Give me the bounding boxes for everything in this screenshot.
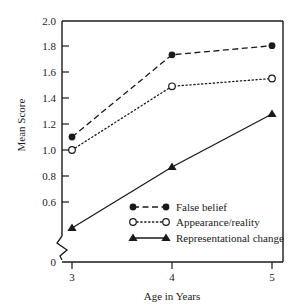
chart-legend: False belief Appearance/reality Represen… xyxy=(128,201,284,244)
data-point-representational-change-age4 xyxy=(167,163,176,171)
series-false-belief xyxy=(69,42,276,140)
series-line-false-belief xyxy=(72,46,272,137)
legend-label-appearance-reality: Appearance/reality xyxy=(176,216,260,228)
x-axis-ticks xyxy=(72,262,272,269)
x-axis-tick-labels: 3 4 5 xyxy=(69,271,275,283)
data-point-appearance-reality-age4 xyxy=(169,83,176,90)
series-representational-change xyxy=(67,110,276,232)
y-axis-tick-labels: 2.0 1.8 1.6 1.4 1.2 1.0 0.8 0.6 0 xyxy=(42,15,56,268)
x-tick-label-3: 3 xyxy=(69,271,75,283)
legend-label-representational-change: Representational change xyxy=(176,232,284,244)
legend-marker-representational-change-start xyxy=(128,234,137,242)
y-tick-label-1-2: 1.2 xyxy=(42,118,56,130)
y-tick-label-0-8: 0.8 xyxy=(42,170,56,182)
y-tick-label-2-0: 2.0 xyxy=(42,15,56,27)
data-point-false-belief-age3 xyxy=(69,134,76,141)
y-tick-label-1-4: 1.4 xyxy=(42,92,56,104)
data-point-appearance-reality-age3 xyxy=(69,147,76,154)
y-axis-ticks xyxy=(62,46,69,202)
y-axis-break-zigzag xyxy=(57,236,67,260)
chart-figure: 2.0 1.8 1.6 1.4 1.2 1.0 0.8 0.6 0 3 4 5 … xyxy=(0,0,302,307)
y-tick-label-0-6: 0.6 xyxy=(42,196,56,208)
y-tick-label-1-0: 1.0 xyxy=(42,144,56,156)
data-point-representational-change-age3 xyxy=(67,224,76,232)
legend-item-false-belief: False belief xyxy=(130,201,228,213)
y-tick-label-1-6: 1.6 xyxy=(42,66,56,78)
legend-item-representational-change: Representational change xyxy=(128,232,284,244)
data-point-appearance-reality-age5 xyxy=(269,75,276,82)
legend-marker-false-belief-end xyxy=(163,204,170,211)
x-axis-title: Age in Years xyxy=(144,290,201,302)
legend-item-appearance-reality: Appearance/reality xyxy=(130,216,260,228)
x-tick-label-4: 4 xyxy=(169,271,175,283)
legend-marker-appearance-reality-end xyxy=(163,219,170,226)
legend-marker-false-belief-start xyxy=(130,204,137,211)
x-tick-label-5: 5 xyxy=(269,271,275,283)
line-chart: 2.0 1.8 1.6 1.4 1.2 1.0 0.8 0.6 0 3 4 5 … xyxy=(0,0,302,307)
y-axis-title: Mean Score xyxy=(15,98,27,151)
legend-label-false-belief: False belief xyxy=(176,201,227,213)
y-tick-label-0: 0 xyxy=(51,256,57,268)
data-point-false-belief-age4 xyxy=(169,51,176,58)
legend-marker-appearance-reality-start xyxy=(130,219,137,226)
series-appearance-reality xyxy=(69,75,276,153)
legend-marker-representational-change-end xyxy=(161,234,170,242)
data-point-representational-change-age5 xyxy=(267,110,276,118)
data-point-false-belief-age5 xyxy=(269,42,276,49)
y-tick-label-1-8: 1.8 xyxy=(42,40,56,52)
